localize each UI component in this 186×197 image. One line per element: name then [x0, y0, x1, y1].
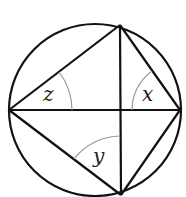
side-right-bottom [121, 110, 180, 195]
angle-label-z: z [42, 82, 54, 106]
diagonal-vertical [120, 25, 121, 195]
angle-label-x: x [142, 82, 153, 106]
side-left-top [9, 25, 120, 110]
angle-arc-z [59, 72, 72, 110]
angle-label-y: y [92, 144, 105, 168]
geometry-diagram: z x y [0, 0, 186, 197]
